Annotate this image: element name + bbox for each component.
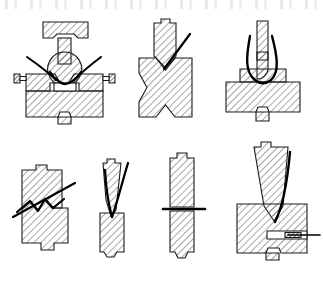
diagram-canvas: [0, 0, 323, 282]
fig1-right-bolt-head: [109, 74, 115, 83]
figure-sheet: Metal forming and cutting operations cro…: [0, 0, 323, 282]
fig6-lower-column: [170, 211, 194, 258]
fig1-die-body: [26, 91, 103, 117]
fig-6-column-horizontal-shear: [170, 153, 194, 258]
fig6-upper-column: [170, 153, 194, 207]
fig1-top-platen: [43, 22, 88, 38]
fig1-left-bolt-head: [14, 74, 20, 83]
fig5-column-workpiece: [100, 213, 124, 257]
fig7-die-block: [237, 204, 307, 253]
fig-7-cone-punch-with-side-ejector: [237, 142, 307, 260]
fig-5-wedge-punch-on-column: [100, 159, 124, 257]
fig1-left-bolt-shank: [20, 77, 26, 81]
fig-3-round-nose-punch-in-stepped-die: [226, 21, 300, 121]
fig1-bottom-boss: [58, 117, 71, 124]
fig-1-ball-indenter-in-clamped-die: [26, 22, 103, 124]
fig3-die-upper-step: [240, 69, 286, 82]
fig3-die-body: [226, 82, 300, 112]
fig7-bottom-boss: [266, 253, 279, 260]
fig3-bottom-boss: [256, 112, 269, 121]
fig1-right-bolt-shank: [103, 77, 109, 81]
